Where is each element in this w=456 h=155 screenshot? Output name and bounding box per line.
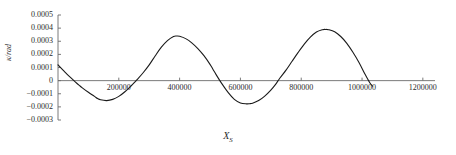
x-axis-title: XS bbox=[0, 130, 456, 144]
data-series-line bbox=[58, 29, 373, 104]
x-tick-label: 600000 bbox=[210, 84, 270, 92]
x-axis-title-subscript: S bbox=[229, 136, 233, 144]
y-tick-label: −0.0003 bbox=[26, 116, 53, 124]
x-tick-label: 800000 bbox=[271, 84, 331, 92]
y-tick-label: 0.0005 bbox=[31, 11, 53, 19]
y-tick-label: 0.0004 bbox=[31, 24, 53, 32]
y-tick-label: −0.0002 bbox=[26, 103, 53, 111]
x-tick-label: 1200000 bbox=[393, 84, 453, 92]
x-tick-label: 400000 bbox=[150, 84, 210, 92]
x-tick-label: 1000000 bbox=[332, 84, 392, 92]
y-tick-label: 0.0002 bbox=[31, 50, 53, 58]
y-tick-label: 0 bbox=[49, 77, 53, 85]
chart-figure: κ/rad 0.00050.00040.00030.00020.00010−0.… bbox=[0, 0, 456, 155]
y-tick-label: −0.0001 bbox=[26, 90, 53, 98]
y-tick-label: 0.0001 bbox=[31, 64, 53, 72]
x-tick-label: 200000 bbox=[89, 84, 149, 92]
y-tick-label: 0.0003 bbox=[31, 37, 53, 45]
